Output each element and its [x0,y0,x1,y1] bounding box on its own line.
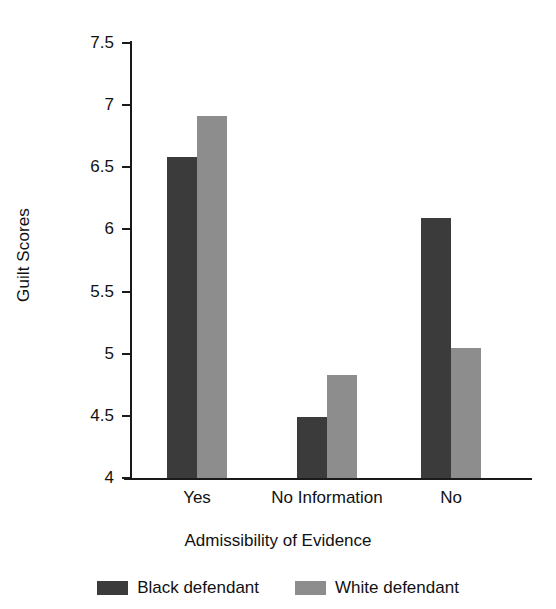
x-axis-line [124,478,532,480]
legend-label: Black defendant [137,578,259,598]
dark-swatch-icon [97,581,128,595]
x-axis-title: Admissibility of Evidence [0,531,556,551]
bar [197,116,227,478]
legend-item: Black defendant [97,578,259,598]
light-swatch-icon [295,581,326,595]
x-axis-category-label: No [351,488,551,508]
bar [327,375,357,478]
bar [297,417,327,478]
bar-chart: Guilt Scores 7.576.565.554.54 YesNo Info… [0,0,556,609]
legend-item: White defendant [295,578,459,598]
bar [167,157,197,478]
legend-label: White defendant [335,578,459,598]
bar-group [421,43,481,478]
bar [421,218,451,478]
bars-layer [0,43,556,478]
bar [451,348,481,479]
bar-group [297,43,357,478]
chart-legend: Black defendantWhite defendant [0,578,556,598]
bar-group [167,43,227,478]
